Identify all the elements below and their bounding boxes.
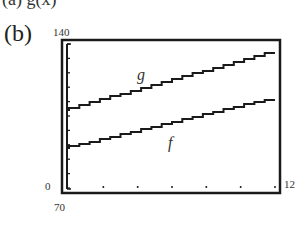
- curve-label-g: g: [137, 66, 145, 84]
- x-axis-dots: [102, 186, 276, 188]
- plot-frame: [62, 40, 280, 193]
- chart-canvas: [0, 0, 307, 228]
- curve-label-f: f: [168, 134, 172, 152]
- curve-g: [69, 53, 275, 111]
